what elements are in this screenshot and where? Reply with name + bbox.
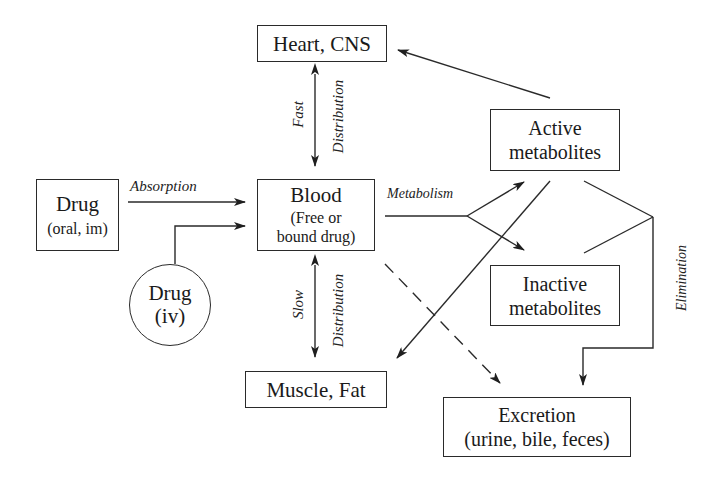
blood-line2: (Free or: [290, 208, 341, 227]
inactive-metabolites-box: Inactive metabolites: [490, 265, 620, 326]
inactive-line2: metabolites: [509, 296, 601, 320]
active-to-heart-arrow: [398, 50, 550, 98]
blood-line3: bound drug): [277, 227, 356, 246]
metabolism-to-active-arrow: [467, 182, 524, 216]
iv-to-blood-arrow: [175, 226, 245, 264]
drug-iv-subtitle: (iv): [155, 305, 185, 328]
elimination-label: Elimination: [674, 238, 690, 318]
blood-title: Blood: [290, 184, 341, 206]
active-line1: Active: [528, 116, 581, 140]
drug-oral-title: Drug: [56, 193, 99, 215]
excretion-box: Excretion (urine, bile, feces): [443, 397, 631, 457]
absorption-label: Absorption: [130, 178, 197, 195]
drug-oral-box: Drug (oral, im): [36, 179, 119, 251]
heart-cns-label: Heart, CNS: [273, 33, 371, 55]
active-metabolites-box: Active metabolites: [490, 109, 620, 171]
blood-to-excretion-dashed-arrow: [385, 264, 500, 383]
heart-cns-box: Heart, CNS: [257, 25, 387, 62]
drug-iv-title: Drug: [148, 282, 191, 305]
muscle-fat-box: Muscle, Fat: [245, 371, 387, 408]
slow-label: Slow: [290, 287, 307, 323]
metabolism-label: Metabolism: [387, 186, 453, 202]
elimination-from-active: [584, 181, 653, 217]
muscle-fat-label: Muscle, Fat: [266, 379, 365, 401]
fast-distribution-label: Distribution: [330, 77, 347, 157]
excretion-line1: Excretion: [498, 403, 576, 427]
excretion-line2: (urine, bile, feces): [464, 427, 609, 451]
inactive-line1: Inactive: [523, 272, 587, 296]
fast-label: Fast: [290, 99, 307, 131]
active-line2: metabolites: [509, 140, 601, 164]
drug-iv-circle: Drug (iv): [129, 264, 211, 346]
drug-oral-subtitle: (oral, im): [47, 219, 107, 238]
slow-distribution-label: Distribution: [330, 271, 347, 351]
elimination-from-inactive: [584, 217, 653, 253]
blood-box: Blood (Free or bound drug): [257, 179, 375, 251]
